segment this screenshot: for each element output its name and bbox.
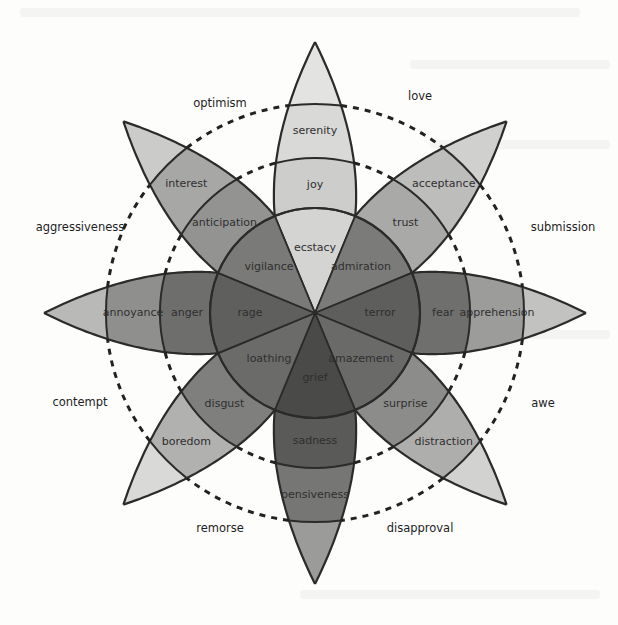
dyad-dashed-arc	[108, 185, 150, 287]
dyad-label-optimism: optimism	[193, 96, 247, 110]
dyad-dashed-arc	[449, 352, 465, 391]
anger-tip-band	[44, 288, 107, 339]
emotion-label-pensiveness: pensiveness	[281, 488, 349, 501]
dyad-dashed-arc	[237, 163, 276, 179]
joy-tip-band	[290, 42, 341, 105]
emotion-wheel-diagram: ecstacyjoyserenityadmirationtrustaccepta…	[0, 0, 618, 625]
emotion-label-anticipation: anticipation	[192, 216, 257, 229]
emotion-label-trust: trust	[393, 216, 420, 229]
emotion-label-disgust: disgust	[205, 397, 245, 410]
dyad-label-love: love	[408, 89, 432, 103]
dyad-dashed-arc	[480, 185, 522, 287]
emotion-label-rage: rage	[237, 306, 262, 319]
emotion-label-apprehension: apprehension	[460, 306, 535, 319]
dyad-dashed-arc	[187, 478, 289, 520]
emotion-label-ecstacy: ecstacy	[294, 241, 337, 254]
emotion-label-joy: joy	[306, 178, 324, 191]
dyad-dashed-arc	[449, 235, 465, 274]
dyad-label-submission: submission	[531, 220, 595, 234]
dyad-label-contempt: contempt	[52, 395, 108, 409]
dyad-dashed-arc	[187, 106, 289, 148]
dyad-label-remorse: remorse	[196, 521, 244, 535]
emotion-label-boredom: boredom	[162, 435, 211, 448]
emotion-label-surprise: surprise	[383, 397, 428, 410]
dyad-dashed-arc	[341, 478, 443, 520]
emotion-label-loathing: loathing	[247, 352, 292, 365]
emotion-label-serenity: serenity	[293, 124, 338, 137]
emotion-label-amazement: amazement	[328, 352, 394, 365]
dyad-dashed-arc	[108, 339, 150, 441]
emotion-label-grief: grief	[302, 371, 328, 384]
sadness-tip-band	[290, 521, 341, 584]
dyad-dashed-arc	[354, 163, 393, 179]
emotion-label-fear: fear	[432, 306, 454, 319]
emotion-label-anger: anger	[171, 306, 203, 319]
emotion-label-interest: interest	[165, 177, 208, 190]
dyad-label-awe: awe	[531, 396, 555, 410]
emotion-label-sadness: sadness	[293, 434, 338, 447]
dyad-label-disapproval: disapproval	[387, 521, 454, 535]
emotion-label-vigilance: vigilance	[244, 260, 293, 273]
dyad-dashed-arc	[165, 352, 181, 391]
emotion-label-terror: terror	[365, 306, 396, 319]
dyad-dashed-arc	[354, 447, 393, 463]
dyad-dashed-arc	[480, 339, 522, 441]
dyad-dashed-arc	[341, 106, 443, 148]
emotion-label-admiration: admiration	[331, 260, 391, 273]
emotion-label-annoyance: annoyance	[103, 306, 164, 319]
dyad-dashed-arc	[165, 235, 181, 274]
emotion-label-distraction: distraction	[414, 435, 472, 448]
dyad-dashed-arc	[237, 447, 276, 463]
emotion-label-acceptance: acceptance	[412, 177, 476, 190]
dyad-label-aggressiveness: aggressiveness	[36, 220, 125, 234]
